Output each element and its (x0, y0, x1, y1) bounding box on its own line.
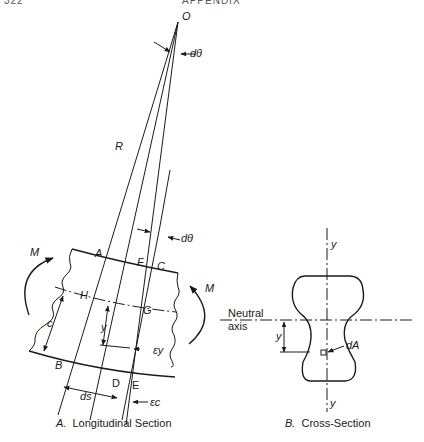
beam-left-break (29, 249, 72, 351)
neutral-axis-line (55, 287, 176, 312)
caption-b: B. Cross-Section (285, 417, 371, 429)
label-moment-left: M (30, 246, 40, 258)
cross-section-shape (292, 276, 363, 381)
caption-a-prefix: A. (55, 417, 66, 429)
page-header-title: APPENDIX (182, 0, 241, 6)
label-dist-y-cross: y (275, 330, 283, 342)
cross-section-figure: y y Neutral axis y dA B. Cross-Section (220, 228, 415, 429)
label-da: dA (346, 339, 359, 351)
radial-line-ab (58, 22, 178, 415)
area-element-da (321, 350, 326, 355)
dtheta-arrow-top-left (154, 42, 170, 52)
label-dtheta-top: dθ (190, 47, 202, 59)
caption-b-prefix: B. (285, 417, 295, 429)
label-moment-right: M (205, 282, 215, 294)
label-axis-y-bottom: y (329, 397, 337, 409)
label-dist-c: c (47, 317, 53, 329)
da-leader-arrow (328, 346, 344, 352)
label-neutral: Neutral (228, 307, 263, 319)
label-point-c: C (157, 260, 165, 272)
label-dtheta-mid: dθ (181, 232, 193, 244)
caption-a-text: Longitudinal Section (72, 417, 171, 429)
label-point-e: E (132, 379, 139, 391)
moment-arrow-right (189, 286, 205, 344)
label-point-a: A (94, 247, 102, 259)
label-strain-y: εy (153, 344, 165, 356)
label-origin-o: O (182, 10, 191, 22)
beam-bending-diagram: 322 APPENDIX (0, 0, 424, 442)
label-arc-ds: ds (80, 390, 92, 402)
label-axis-y-top: y (330, 238, 338, 250)
label-point-g: G (143, 304, 152, 316)
label-radius-r: R (115, 140, 123, 152)
y-leader (100, 345, 130, 348)
beam-right-break (170, 273, 179, 367)
label-axis: axis (228, 320, 248, 332)
label-dist-y: y (100, 321, 108, 333)
label-point-b: B (55, 359, 62, 371)
label-strain-c: εc (150, 396, 161, 408)
moment-arrow-left (25, 258, 53, 315)
page-number: 322 (4, 0, 24, 6)
dtheta-mid-left-arrow (137, 229, 150, 232)
label-point-h: H (80, 289, 88, 301)
caption-a: A. Longitudinal Section (55, 417, 172, 429)
line-c-ext (160, 170, 170, 226)
label-point-d: D (112, 377, 120, 389)
caption-b-text: Cross-Section (301, 417, 370, 429)
dtheta-mid-right-arrow (168, 237, 180, 240)
longitudinal-section-figure: O dθ R dθ M M A F C H G B D E c y εy ds … (25, 10, 215, 429)
